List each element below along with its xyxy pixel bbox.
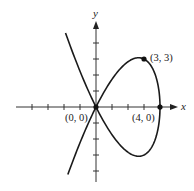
chart: x y (0, 0)(3, 3)(4, 0) xyxy=(0,0,194,191)
curve-line xyxy=(66,33,160,175)
point-label: (0, 0) xyxy=(65,112,88,124)
y-axis-label: y xyxy=(92,7,98,19)
data-point xyxy=(141,56,146,61)
x-axis-arrow-icon xyxy=(170,104,178,110)
data-point xyxy=(157,104,162,109)
data-point xyxy=(93,104,98,109)
axes: x y xyxy=(16,7,186,182)
y-axis-arrow-icon xyxy=(93,21,99,29)
point-label: (3, 3) xyxy=(150,52,173,64)
x-axis-label: x xyxy=(180,100,186,112)
point-label: (4, 0) xyxy=(132,112,155,124)
points: (0, 0)(3, 3)(4, 0) xyxy=(65,52,173,124)
